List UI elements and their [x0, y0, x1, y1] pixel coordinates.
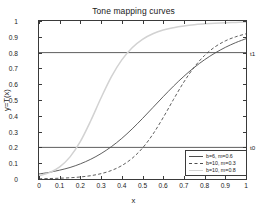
legend-label: b=10, m=0.3: [206, 160, 236, 166]
x-tick-mark: [184, 21, 185, 24]
y-tick-label: 0: [0, 176, 18, 183]
y-tick-mark: [39, 37, 42, 38]
y-tick-mark: [243, 100, 246, 101]
x-tick-mark: [163, 176, 164, 179]
y-tick-mark: [39, 132, 42, 133]
y-tick-mark: [243, 84, 246, 85]
x-tick-mark: [80, 176, 81, 179]
y-tick-label: 0.4: [0, 112, 18, 119]
legend-line-sample: [188, 153, 204, 159]
x-tick-mark: [143, 21, 144, 24]
chart-title: Tone mapping curves: [0, 6, 267, 16]
y-tick-mark: [39, 53, 42, 54]
y-tick-label: 0.7: [0, 65, 18, 72]
y-tick-mark: [39, 116, 42, 117]
y-tick-mark: [39, 68, 42, 69]
x-tick-mark: [225, 176, 226, 179]
x-tick-mark: [184, 176, 185, 179]
legend-label: b=6, m=0.6: [206, 153, 233, 159]
legend-item[interactable]: b=6, m=0.6: [188, 153, 244, 159]
legend-line-sample: [188, 167, 204, 173]
x-tick-mark: [143, 176, 144, 179]
x-tick-mark: [225, 21, 226, 24]
y-tick-mark: [39, 147, 42, 148]
threshold-label-t1: t1: [250, 49, 255, 56]
y-tick-mark: [243, 179, 246, 180]
x-tick-mark: [101, 176, 102, 179]
legend-item[interactable]: b=10, m=0.3: [188, 160, 244, 166]
y-tick-mark: [243, 147, 246, 148]
y-tick-label: 0.1: [0, 160, 18, 167]
x-tick-mark: [205, 21, 206, 24]
y-tick-mark: [243, 116, 246, 117]
y-tick-mark: [39, 21, 42, 22]
x-tick-label: 1: [233, 182, 259, 189]
y-tick-mark: [39, 84, 42, 85]
figure: Tone mapping curves y=T(x) x 00.10.20.30…: [0, 0, 267, 213]
y-tick-mark: [243, 37, 246, 38]
y-tick-mark: [39, 100, 42, 101]
x-tick-mark: [205, 176, 206, 179]
legend-item[interactable]: b=10, m=0.8: [188, 167, 244, 173]
x-tick-mark: [122, 176, 123, 179]
legend-label: b=10, m=0.8: [206, 167, 236, 173]
y-tick-mark: [243, 53, 246, 54]
y-tick-label: 0.5: [0, 97, 18, 104]
y-tick-label: 0.9: [0, 33, 18, 40]
x-tick-mark: [101, 21, 102, 24]
y-tick-label: 0.3: [0, 128, 18, 135]
legend-line-sample: [188, 160, 204, 166]
y-tick-label: 0.8: [0, 49, 18, 56]
legend[interactable]: b=6, m=0.6b=10, m=0.3b=10, m=0.8: [185, 150, 247, 176]
x-tick-mark: [80, 21, 81, 24]
x-tick-mark: [60, 176, 61, 179]
x-tick-mark: [246, 176, 247, 179]
y-tick-mark: [243, 21, 246, 22]
y-tick-mark: [243, 68, 246, 69]
y-tick-mark: [39, 179, 42, 180]
y-tick-label: 1: [0, 18, 18, 25]
y-tick-mark: [243, 132, 246, 133]
x-tick-mark: [246, 21, 247, 24]
y-tick-label: 0.6: [0, 81, 18, 88]
x-tick-mark: [163, 21, 164, 24]
y-tick-mark: [39, 163, 42, 164]
x-axis-title: x: [0, 196, 267, 205]
x-tick-mark: [60, 21, 61, 24]
y-tick-label: 0.2: [0, 144, 18, 151]
x-tick-mark: [122, 21, 123, 24]
threshold-label-t0: t0: [250, 144, 255, 151]
